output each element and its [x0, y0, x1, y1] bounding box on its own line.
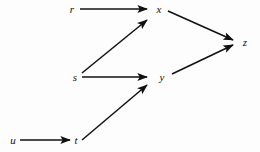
- node-label-y[interactable]: y: [160, 72, 165, 83]
- node-label-r[interactable]: r: [70, 4, 74, 15]
- node-label-x[interactable]: x: [157, 4, 162, 15]
- node-label-s[interactable]: s: [73, 72, 77, 83]
- edge-s-to-x: [82, 20, 147, 73]
- node-label-z[interactable]: z: [243, 37, 247, 48]
- node-label-t[interactable]: t: [74, 135, 77, 146]
- edges-group: [20, 9, 233, 140]
- edge-y-to-z: [172, 45, 233, 74]
- edge-layer: [0, 0, 260, 152]
- edge-t-to-y: [82, 85, 147, 140]
- edge-x-to-z: [168, 11, 233, 40]
- node-label-u[interactable]: u: [10, 135, 16, 146]
- diagram-canvas: rxsyzut: [0, 0, 260, 152]
